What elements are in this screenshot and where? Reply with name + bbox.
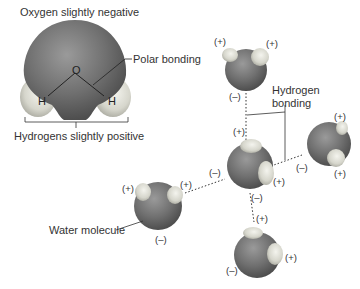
polar-bonding-label: Polar bonding (133, 53, 201, 65)
charge-plus: (+) (273, 177, 285, 187)
charge-plus: (+) (214, 37, 226, 47)
charge-plus: (+) (334, 112, 346, 122)
charge-minus: (–) (209, 168, 221, 178)
water-molecule-center (227, 139, 274, 189)
charge-plus: (+) (285, 253, 297, 263)
hydrogen-symbol-right: H (108, 95, 116, 107)
oxygen-label: Oxygen slightly negative (20, 6, 139, 18)
charge-minus: (–) (229, 92, 241, 102)
hydrogen-symbol-left: H (38, 95, 46, 107)
water-molecule-right (307, 121, 351, 167)
charge-plus: (+) (122, 184, 134, 194)
charge-minus: (–) (226, 266, 238, 276)
charge-plus: (+) (266, 39, 278, 49)
charge-plus: (+) (180, 180, 192, 190)
hydrogens-label: Hydrogens slightly positive (14, 130, 144, 142)
charge-plus: (+) (334, 169, 346, 179)
water-molecule-top (222, 48, 269, 91)
charge-minus: (–) (251, 193, 263, 203)
charge-plus: (+) (233, 127, 245, 137)
charge-plus: (+) (256, 214, 268, 224)
hydrogen-bonding-label: Hydrogen bonding (272, 84, 320, 110)
water-molecule-label: Water molecule (49, 224, 125, 236)
charge-minus: (–) (155, 235, 167, 245)
charge-minus: (–) (296, 163, 308, 173)
water-molecule-bottom (234, 227, 283, 278)
water-molecule-diagram (0, 0, 360, 289)
oxygen-symbol: O (72, 64, 81, 76)
